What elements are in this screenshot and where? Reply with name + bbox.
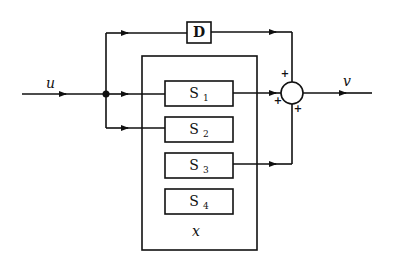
d-block: D [187, 22, 211, 43]
svg-text:S: S [189, 193, 199, 209]
svg-text:S: S [189, 121, 199, 137]
subsystem-s1: S 1 [165, 81, 233, 106]
block-diagram: u D S 1 S 2 S [0, 0, 394, 262]
sum-sign-left: + [274, 95, 282, 106]
sum-sign-bottom: + [294, 103, 302, 114]
output-label: v [343, 73, 351, 89]
summing-junction [281, 82, 303, 104]
svg-text:S: S [189, 157, 199, 173]
subsystem-s2: S 2 [165, 117, 233, 142]
system-label: x [192, 223, 200, 239]
input-label: u [46, 75, 55, 91]
svg-text:1: 1 [203, 93, 209, 103]
subsystem-s4: S 4 [165, 189, 233, 214]
subsystem-s3: S 3 [165, 153, 233, 178]
svg-text:4: 4 [203, 201, 209, 211]
sum-sign-top: + [281, 68, 289, 79]
d-block-label: D [193, 24, 205, 40]
svg-text:2: 2 [203, 129, 209, 139]
svg-text:S: S [189, 85, 199, 101]
svg-text:3: 3 [203, 165, 209, 175]
